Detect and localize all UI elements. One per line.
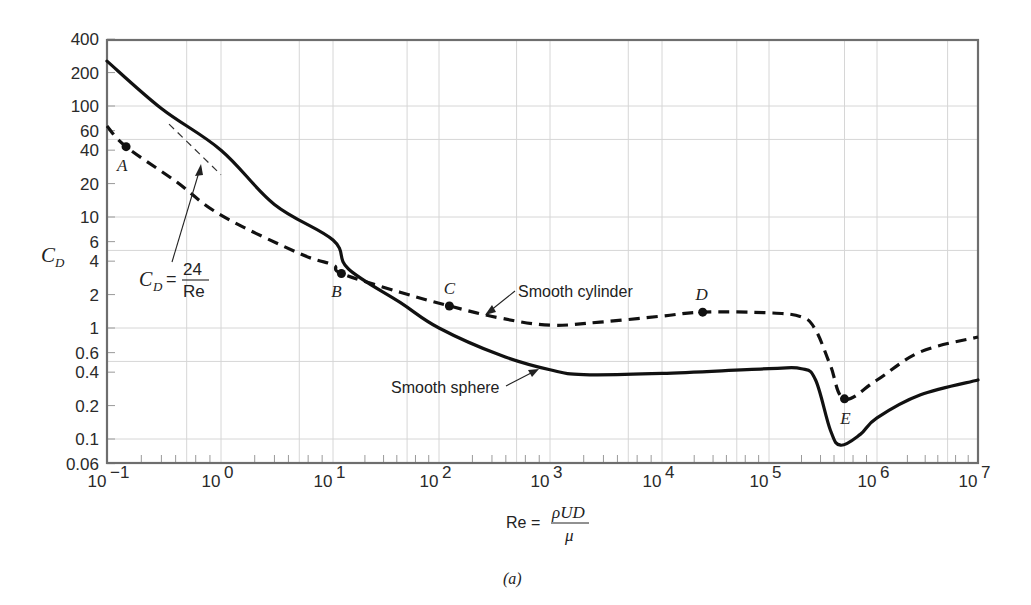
data-point-marker xyxy=(840,394,849,403)
formula-lhs-c: C xyxy=(139,268,153,290)
x-axis-label-numerator: ρUD xyxy=(551,503,585,522)
y-tick-label: 0.06 xyxy=(66,455,99,474)
x-tick-label: 10 xyxy=(531,472,550,491)
y-tick-label: 0.2 xyxy=(75,397,99,416)
x-tick-exponent: 5 xyxy=(772,463,781,482)
formula-denominator: Re xyxy=(183,282,205,301)
y-tick-label: 2 xyxy=(90,286,99,305)
data-point-marker xyxy=(445,301,454,310)
smooth-sphere-curve xyxy=(107,61,978,445)
x-tick-label: 10 xyxy=(314,472,333,491)
y-tick-label: 4 xyxy=(90,252,99,271)
y-tick-label: 10 xyxy=(80,208,99,227)
x-tick-label: 10 xyxy=(88,472,107,491)
x-tick-label: 10 xyxy=(858,472,877,491)
y-tick-label: 20 xyxy=(80,175,99,194)
data-point-marker xyxy=(122,142,131,151)
minor-ticks xyxy=(107,39,968,463)
data-point-label: D xyxy=(695,285,709,304)
x-tick-label: 10 xyxy=(420,472,439,491)
y-tick-label: 60 xyxy=(80,122,99,141)
x-tick-exponent: 2 xyxy=(442,463,451,482)
y-tick-label: 0.1 xyxy=(75,430,99,449)
x-axis-tick-labels: 10−1100101102103104105106107 xyxy=(88,463,991,491)
x-tick-exponent: 4 xyxy=(665,463,674,482)
y-axis-label: C D xyxy=(41,243,65,270)
x-tick-label: 10 xyxy=(959,472,978,491)
y-axis-tick-labels: 4002001006040201064210.60.40.20.10.06 xyxy=(66,30,99,473)
cylinder-label: Smooth cylinder xyxy=(518,283,633,300)
y-axis-label-sub: D xyxy=(54,255,65,270)
cylinder-annotation: Smooth cylinder xyxy=(485,283,633,315)
data-point-label: B xyxy=(331,282,342,301)
x-tick-exponent: −1 xyxy=(110,463,129,482)
y-tick-label: 400 xyxy=(71,30,99,49)
y-tick-label: 1 xyxy=(90,319,99,338)
y-tick-label: 0.6 xyxy=(75,344,99,363)
data-point-label: E xyxy=(839,409,851,428)
formula-equals: = xyxy=(166,269,177,289)
y-tick-label: 100 xyxy=(71,97,99,116)
sphere-leader-line xyxy=(506,372,533,386)
x-tick-label: 10 xyxy=(202,472,221,491)
arrowhead-icon xyxy=(528,369,539,377)
x-tick-exponent: 7 xyxy=(981,463,990,482)
stokes-formula-annotation: C D = 24 Re xyxy=(139,164,209,301)
x-tick-exponent: 6 xyxy=(880,463,889,482)
data-point-label: C xyxy=(444,279,456,298)
y-axis-label-main: C xyxy=(41,243,56,267)
figure-caption: (a) xyxy=(503,570,522,588)
drag-coefficient-chart: 4002001006040201064210.60.40.20.10.06 10… xyxy=(0,0,1031,605)
arrowhead-icon xyxy=(195,164,203,176)
data-point-label: A xyxy=(116,156,128,175)
arrowhead-icon xyxy=(485,305,496,315)
x-tick-exponent: 0 xyxy=(224,463,233,482)
x-tick-label: 10 xyxy=(750,472,769,491)
x-tick-exponent: 1 xyxy=(336,463,345,482)
y-tick-label: 0.4 xyxy=(75,363,99,382)
formula-numerator: 24 xyxy=(183,260,202,279)
x-axis-label-denominator: μ xyxy=(564,526,574,545)
x-tick-label: 10 xyxy=(643,472,662,491)
y-tick-label: 200 xyxy=(71,64,99,83)
x-axis-label: Re = ρUD μ xyxy=(506,503,589,545)
y-tick-label: 6 xyxy=(90,233,99,252)
formula-lhs-sub: D xyxy=(152,279,163,294)
x-axis-label-lhs: Re = xyxy=(506,514,540,531)
sphere-label: Smooth sphere xyxy=(391,379,500,396)
cylinder-leader-line xyxy=(490,291,515,311)
data-point-marker xyxy=(337,269,346,278)
data-point-marker xyxy=(698,308,707,317)
x-tick-exponent: 3 xyxy=(553,463,562,482)
y-tick-label: 40 xyxy=(80,141,99,160)
